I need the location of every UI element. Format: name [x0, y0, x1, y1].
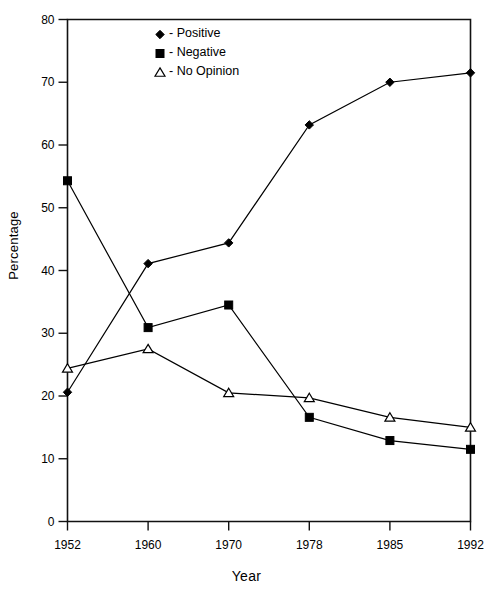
data-point-marker — [467, 445, 475, 453]
y-axis-tick-label: 70 — [21, 76, 55, 88]
data-point-marker — [466, 69, 474, 77]
y-axis-tick-label: 50 — [21, 202, 55, 214]
square-filled-icon — [152, 46, 168, 60]
data-point-marker — [305, 121, 313, 129]
y-axis-title: Percentage — [6, 196, 21, 296]
legend-item-label: - Positive — [168, 24, 220, 43]
y-axis-tick-label: 40 — [21, 265, 55, 277]
x-axis-tick-label: 1970 — [199, 539, 259, 551]
legend-item: - Negative — [152, 43, 239, 62]
data-point-marker — [225, 301, 233, 309]
y-axis-tick-label: 20 — [21, 390, 55, 402]
y-axis-tick-label: 0 — [21, 516, 55, 528]
plot-frame — [68, 20, 471, 522]
triangle-open-icon — [152, 65, 168, 79]
x-axis-tick-label: 1978 — [279, 539, 339, 551]
chart-legend: - Positive- Negative- No Opinion — [152, 24, 239, 81]
y-axis-tick-label: 60 — [21, 139, 55, 151]
x-axis-tick-label: 1992 — [441, 539, 493, 551]
data-point-marker — [64, 177, 72, 185]
legend-item-label: - No Opinion — [168, 62, 239, 81]
series-line-negative — [68, 181, 471, 450]
legend-item: - Positive — [152, 24, 239, 43]
x-axis-tick-label: 1960 — [118, 539, 178, 551]
data-point-marker — [224, 388, 234, 396]
data-point-marker — [143, 344, 153, 352]
series-line-positive — [68, 73, 471, 392]
chart-container: Percentage Year 01020304050607080 195219… — [0, 0, 493, 595]
legend-item-label: - Negative — [168, 43, 226, 62]
data-point-marker — [305, 413, 313, 421]
y-axis-tick-label: 30 — [21, 327, 55, 339]
x-axis-tick-label: 1985 — [360, 539, 420, 551]
data-point-marker — [386, 437, 394, 445]
y-axis-tick-label: 10 — [21, 453, 55, 465]
line-chart-plot — [0, 0, 493, 595]
x-axis-title: Year — [0, 568, 493, 584]
data-point-marker — [225, 239, 233, 247]
diamond-filled-icon — [152, 27, 168, 41]
legend-item: - No Opinion — [152, 62, 239, 81]
data-point-marker — [386, 78, 394, 86]
y-axis-tick-label: 80 — [21, 14, 55, 26]
data-point-marker — [144, 259, 152, 267]
data-point-marker — [63, 388, 71, 396]
x-axis-tick-label: 1952 — [38, 539, 98, 551]
data-point-marker — [144, 324, 152, 332]
